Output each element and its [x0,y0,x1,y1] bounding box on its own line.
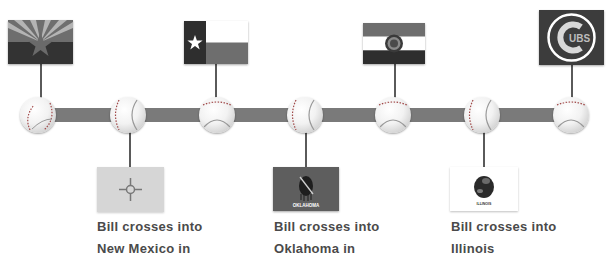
connector-line [483,131,485,168]
baseball-icon [199,97,235,133]
caption-line: Oklahoma in [274,238,380,257]
connector-line [305,131,307,168]
baseball-icon [375,97,411,133]
svg-text:OKLAHOMA: OKLAHOMA [293,203,320,208]
new-mexico-flag-icon [97,167,164,212]
connector-line [571,64,573,99]
svg-text:UBS: UBS [569,33,590,44]
baseball-icon [110,97,146,133]
arizona-flag-icon [8,20,73,64]
missouri-flag-icon [363,23,425,64]
baseball-icon [20,97,56,133]
connector-line [394,63,396,99]
caption-line: Illinois [451,238,557,257]
illinois-flag-icon: ILLINOIS [450,167,518,211]
connector-line [40,63,42,99]
connector-line [129,131,131,168]
svg-text:ILLINOIS: ILLINOIS [477,202,492,206]
caption-oklahoma: Bill crosses into Oklahoma in [274,216,380,257]
texas-flag-icon [184,21,248,64]
connector-line [215,63,217,99]
caption-illinois: Bill crosses into Illinois [451,216,557,257]
caption-line: Bill crosses into [274,216,380,238]
oklahoma-flag-icon: OKLAHOMA [273,167,339,211]
cubs-logo-icon: UBS [539,10,604,65]
caption-line: New Mexico in [97,238,203,257]
baseball-icon [553,97,589,133]
caption-line: Bill crosses into [451,216,557,238]
caption-new-mexico: Bill crosses into New Mexico in [97,216,203,257]
caption-line: Bill crosses into [97,216,203,238]
baseball-icon [464,97,500,133]
baseball-icon [287,97,323,133]
